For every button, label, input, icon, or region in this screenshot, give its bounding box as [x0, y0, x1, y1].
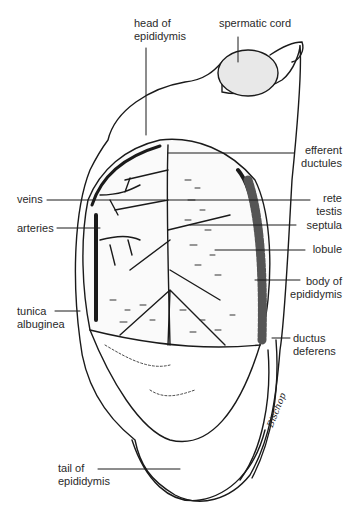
ductus-deferens	[240, 350, 269, 480]
label-efferent-ductules: efferent ductules	[296, 144, 342, 170]
label-tunica-albuginea: tunica albuginea	[17, 305, 65, 331]
label-lobule: lobule	[306, 243, 342, 256]
testis-illustration	[0, 0, 357, 525]
label-tail-of-epididymis: tail of epididymis	[58, 462, 110, 488]
label-spermatic-cord: spermatic cord	[219, 17, 291, 30]
label-rete-testis: rete testis	[310, 192, 342, 218]
label-ductus-deferens: ductus deferens	[293, 332, 336, 358]
label-septula: septula	[298, 219, 342, 232]
label-body-of-epididymis: body of epididymis	[290, 275, 342, 301]
label-head-of-epididymis: head of epididymis	[134, 17, 186, 43]
spermatic-cord-section	[218, 50, 278, 96]
label-veins: veins	[17, 193, 43, 206]
epididymis-tail	[132, 430, 265, 501]
label-arteries: arteries	[17, 222, 54, 235]
testis-cut-face	[83, 139, 270, 347]
